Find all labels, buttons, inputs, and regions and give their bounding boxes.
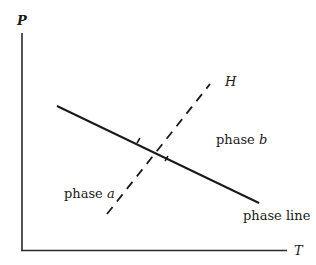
phase-diagram: P T H phase b phase a phase line xyxy=(0,0,316,265)
x-axis-label: T xyxy=(294,243,304,258)
crossing-tick-upper xyxy=(137,138,140,143)
y-axis-label: P xyxy=(16,13,28,28)
phase-b-label: phase b xyxy=(216,132,267,147)
line-h-label: H xyxy=(224,74,237,89)
dashed-line-h xyxy=(107,84,210,214)
phase-line-label: phase line xyxy=(243,208,311,223)
phase-a-label: phase a xyxy=(64,186,115,201)
